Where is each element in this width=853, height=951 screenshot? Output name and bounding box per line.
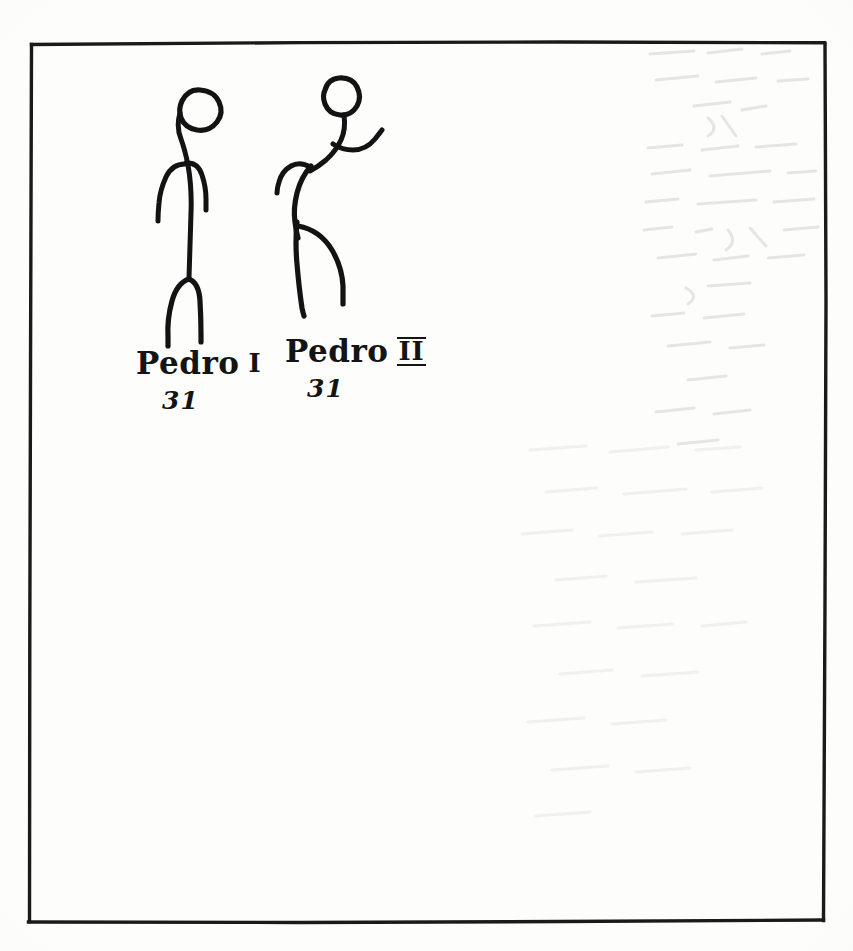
caption-pedro-ii-year: 31 — [307, 374, 426, 403]
figure-pedro-i-right-leg — [189, 279, 201, 342]
figure-pedro-i-left-leg — [168, 279, 189, 346]
caption-pedro-ii: PedroII 31 — [285, 333, 426, 403]
caption-pedro-ii-name: Pedro — [285, 333, 388, 369]
caption-pedro-i: PedroI 31 — [136, 345, 262, 415]
figure-pedro-i-head — [180, 90, 221, 130]
figure-pedro-ii-neck — [310, 115, 345, 171]
figure-pedro-ii-head — [324, 78, 360, 115]
drawing-frame — [29, 42, 827, 923]
caption-pedro-i-numeral: I — [248, 348, 261, 378]
figure-pedro-i-torso — [178, 113, 191, 278]
figure-pedro-i — [158, 90, 221, 346]
figure-pedro-i-left-arm — [158, 164, 185, 221]
figure-pedro-ii-front-leg — [298, 226, 343, 304]
caption-pedro-ii-numeral: II — [397, 337, 425, 366]
stick-figure-drawing — [0, 0, 853, 951]
caption-pedro-i-name: Pedro — [136, 345, 239, 381]
figure-pedro-ii — [277, 78, 382, 316]
scanned-page: PedroI 31 PedroII 31 — [0, 0, 853, 951]
caption-pedro-i-year: 31 — [162, 386, 262, 415]
